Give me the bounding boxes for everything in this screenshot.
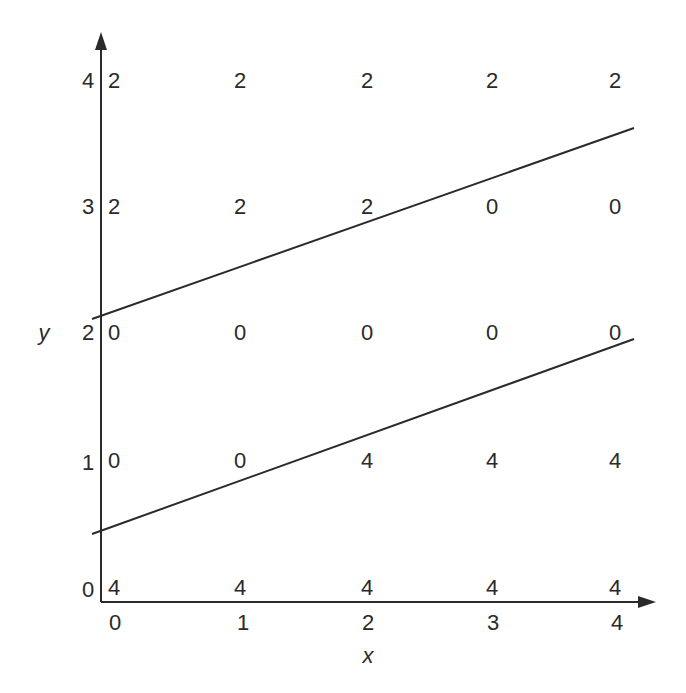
cell-value: 0 xyxy=(609,322,621,344)
y-tick-4: 4 xyxy=(82,70,94,92)
cell-value: 4 xyxy=(361,450,373,472)
x-tick-3: 3 xyxy=(487,612,499,634)
cell-value: 4 xyxy=(486,450,498,472)
upper-boundary-line xyxy=(92,128,634,319)
x-tick-4: 4 xyxy=(611,612,623,634)
cell-value: 0 xyxy=(486,322,498,344)
cell-value: 2 xyxy=(361,70,373,92)
cell-value: 2 xyxy=(486,70,498,92)
y-axis-label: y xyxy=(39,322,50,344)
cell-value: 0 xyxy=(108,450,120,472)
cell-value: 0 xyxy=(234,322,246,344)
cell-value: 2 xyxy=(361,196,373,218)
cell-value: 4 xyxy=(486,577,498,599)
cell-value: 2 xyxy=(108,196,120,218)
cell-value: 4 xyxy=(609,577,621,599)
x-axis-label: x xyxy=(363,645,374,667)
cell-value: 0 xyxy=(361,322,373,344)
y-tick-2: 2 xyxy=(82,322,94,344)
y-tick-1: 1 xyxy=(82,452,94,474)
cell-value: 2 xyxy=(234,196,246,218)
x-tick-0: 0 xyxy=(109,612,121,634)
y-tick-3: 3 xyxy=(82,196,94,218)
y-tick-0: 0 xyxy=(82,579,94,601)
x-tick-2: 2 xyxy=(362,612,374,634)
cell-value: 4 xyxy=(108,577,120,599)
cell-value: 4 xyxy=(609,450,621,472)
cell-value: 4 xyxy=(234,577,246,599)
x-tick-1: 1 xyxy=(237,612,249,634)
cell-value: 0 xyxy=(108,322,120,344)
cell-value: 2 xyxy=(234,70,246,92)
cell-value: 2 xyxy=(108,70,120,92)
lower-boundary-line xyxy=(92,339,634,534)
axes-diagram xyxy=(0,0,686,693)
cell-value: 0 xyxy=(609,196,621,218)
cell-value: 0 xyxy=(486,196,498,218)
cell-value: 0 xyxy=(234,450,246,472)
cell-value: 2 xyxy=(609,70,621,92)
x-axis-arrow-icon xyxy=(638,596,656,608)
y-axis-arrow-icon xyxy=(95,32,107,50)
cell-value: 4 xyxy=(361,577,373,599)
